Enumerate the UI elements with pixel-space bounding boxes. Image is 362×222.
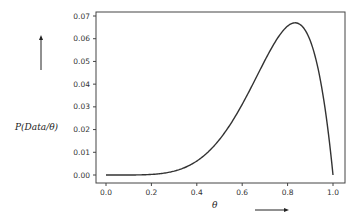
x-tick-label: 0.4	[191, 188, 203, 197]
likelihood-curve	[106, 23, 333, 175]
y-tick-label: 0.00	[73, 171, 90, 180]
x-axis-label: θ	[212, 200, 218, 210]
y-axis-ticks: 0.000.010.020.030.040.050.060.07	[73, 12, 96, 180]
up-arrow-icon	[39, 35, 43, 70]
x-tick-label: 0.0	[100, 188, 112, 197]
y-tick-label: 0.07	[73, 12, 90, 21]
y-axis-label: P(Data/θ)	[14, 122, 59, 132]
x-tick-label: 0.8	[282, 188, 294, 197]
y-tick-label: 0.05	[73, 57, 90, 66]
x-tick-label: 0.6	[236, 188, 248, 197]
y-tick-label: 0.06	[73, 34, 90, 43]
y-tick-label: 0.03	[73, 102, 90, 111]
right-arrow-icon	[255, 208, 289, 212]
x-tick-label: 1.0	[327, 188, 339, 197]
axes-frame	[96, 12, 345, 183]
y-tick-label: 0.02	[73, 125, 90, 134]
likelihood-chart: 0.000.010.020.030.040.050.060.07 0.00.20…	[0, 0, 362, 222]
y-tick-label: 0.01	[73, 148, 90, 157]
y-tick-label: 0.04	[73, 80, 90, 89]
x-tick-label: 0.2	[145, 188, 157, 197]
x-axis-ticks: 0.00.20.40.60.81.0	[100, 183, 339, 197]
